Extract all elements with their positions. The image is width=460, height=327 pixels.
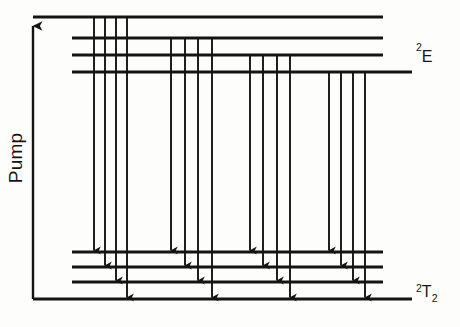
energy-level-diagram: Pump 2E 2T2 — [0, 0, 460, 327]
upper-label-term: E — [422, 48, 433, 65]
lower-label-term: T — [422, 283, 432, 300]
upper-manifold-label: 2E — [416, 41, 433, 65]
pump-axis-label: Pump — [5, 133, 26, 183]
lower-level-group — [33, 252, 412, 299]
svg-text:2T2: 2T2 — [416, 282, 438, 304]
upper-level-group — [33, 17, 412, 72]
svg-text:2E: 2E — [416, 41, 433, 65]
lower-label-subscript: 2 — [432, 292, 438, 304]
energy-diagram-canvas: Pump 2E 2T2 — [0, 0, 460, 327]
lower-manifold-label: 2T2 — [416, 282, 438, 304]
transition-arrow-group — [94, 17, 365, 298]
